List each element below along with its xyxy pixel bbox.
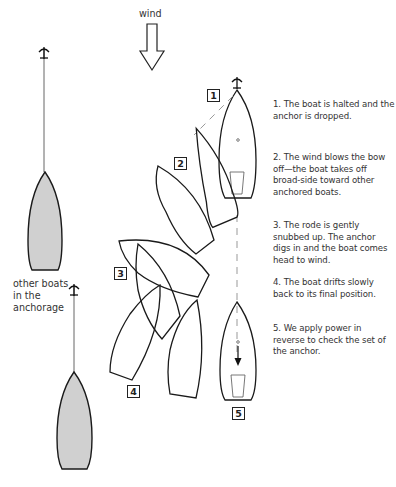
step-marker-3: 3 [114,267,127,280]
step-marker-1: 1 [207,89,220,102]
step-5-description: 5. We apply power in reverse to check th… [273,323,395,358]
anchor-icon [232,77,242,89]
wind-arrow-icon [140,24,164,70]
step-marker-2: 2 [174,157,187,170]
other-boats-label-line: in the [13,290,68,302]
other-boats-label-line: anchorage [13,302,68,314]
reverse-arrow-icon [235,346,242,366]
step-2-description: 2. The wind blows the bow off—the boat t… [273,152,395,198]
step-4-description: 4. The boat drifts slowly back to its fi… [273,277,395,300]
step-marker-5: 5 [232,407,245,420]
step-marker-4: 4 [127,385,140,398]
boat-hull-icon [57,372,92,469]
anchor-icon [39,47,49,59]
boat-hull-icon [28,172,62,270]
boat-position-5 [220,302,256,400]
step-1-description: 1. The boat is halted and the anchor is … [273,99,395,122]
other-boats-label-line: other boats [13,278,68,290]
boat-position-1 [219,77,256,198]
anchored-boat-upper [28,47,62,270]
step-3-description: 3. The rode is gently snubbed up. The an… [273,220,395,266]
boat-position-2a [187,123,240,227]
boat-position-3 [119,240,209,339]
anchor-icon [69,284,79,296]
wind-label: wind [139,8,162,20]
other-boats-label: other boats in the anchorage [13,278,68,314]
boat-position-4 [110,285,202,398]
boat-position-2b [156,166,214,254]
